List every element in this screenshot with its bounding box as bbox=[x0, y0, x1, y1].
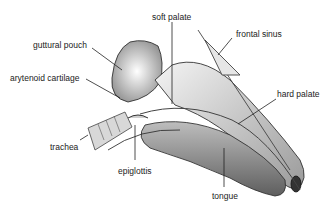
label-arytenoid-cartilage: arytenoid cartilage bbox=[10, 73, 79, 83]
trachea-shape bbox=[88, 112, 132, 150]
label-epiglottis: epiglottis bbox=[118, 166, 152, 176]
guttural-pouch-shape bbox=[112, 41, 162, 102]
label-trachea: trachea bbox=[50, 142, 78, 152]
label-guttural-pouch: guttural pouch bbox=[33, 40, 87, 50]
label-soft-palate: soft palate bbox=[152, 12, 191, 22]
anatomy-diagram: soft palate frontal sinus guttural pouch… bbox=[0, 0, 331, 214]
label-tongue: tongue bbox=[212, 191, 238, 201]
label-frontal-sinus: frontal sinus bbox=[236, 29, 282, 39]
leader-frontal-sinus bbox=[218, 38, 232, 55]
label-hard-palate: hard palate bbox=[277, 89, 320, 99]
leader-trachea bbox=[80, 135, 88, 140]
